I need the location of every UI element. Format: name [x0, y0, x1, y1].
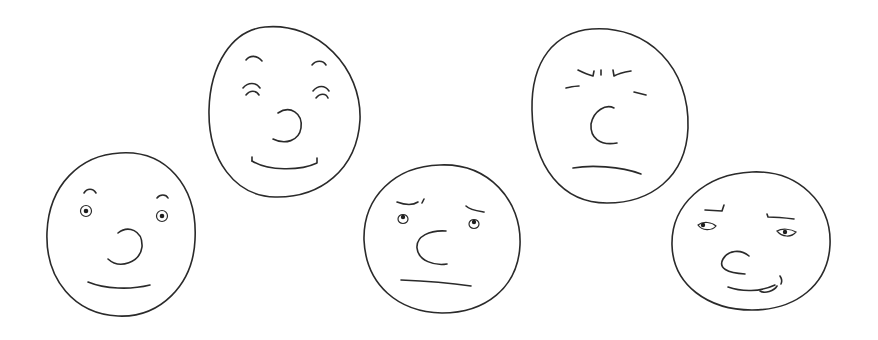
mouth-smile: [252, 158, 317, 169]
right-eye-closed: [313, 87, 329, 92]
left-eye-closed-lower: [246, 91, 259, 95]
right-pupil: [783, 230, 787, 234]
face-outline: [532, 29, 688, 203]
left-pupil: [701, 223, 705, 227]
left-eye-squint: [566, 86, 579, 88]
nose: [108, 229, 142, 264]
left-eyebrow: [246, 56, 262, 61]
mouth-corner-curl: [780, 276, 782, 284]
face-outline: [364, 165, 520, 313]
left-pupil: [401, 215, 405, 219]
right-eye-squint: [634, 92, 646, 95]
left-eye-closed: [243, 84, 260, 89]
right-eyebrow: [312, 61, 326, 65]
mouth-flat: [401, 280, 471, 286]
left-pupil: [84, 209, 89, 214]
mouth-frown: [573, 166, 641, 174]
right-pupil: [472, 220, 476, 224]
left-eyebrow-tick: [422, 199, 424, 203]
nose: [591, 107, 617, 144]
face-surprised-smile: [47, 153, 195, 316]
right-eye-closed-lower: [316, 94, 328, 98]
right-eyebrow: [157, 195, 168, 198]
mouth-smile: [88, 282, 150, 288]
face-angry: [532, 29, 688, 203]
right-brow-furrow: [613, 70, 631, 76]
right-pupil: [160, 214, 165, 219]
face-outline: [47, 153, 195, 316]
left-eyebrow: [397, 202, 418, 205]
nose: [722, 251, 749, 274]
right-eyebrow: [466, 206, 484, 212]
face-happy: [209, 27, 360, 197]
faces-drawing: [0, 0, 878, 340]
left-eyebrow: [84, 189, 96, 193]
left-eye-half-closed: [698, 222, 716, 229]
right-eyebrow: [767, 214, 794, 219]
face-outline: [209, 27, 360, 197]
mouth-smirk: [728, 285, 775, 291]
faces-illustration: [0, 0, 878, 340]
face-smug: [672, 172, 830, 310]
face-outline: [672, 172, 830, 310]
face-skeptical: [364, 165, 520, 313]
left-eyebrow: [705, 205, 724, 211]
left-brow-furrow: [578, 70, 594, 76]
nose: [417, 231, 447, 265]
nose: [273, 110, 301, 142]
